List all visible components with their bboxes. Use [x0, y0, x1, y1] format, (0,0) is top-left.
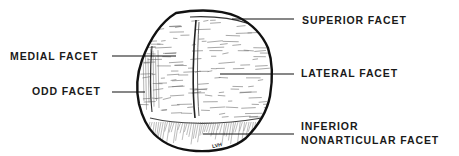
hatch-stroke	[237, 26, 246, 27]
median-ridge	[193, 20, 196, 118]
hatch-stroke	[222, 53, 228, 54]
hatch-stroke	[226, 107, 238, 108]
hatch-stroke	[167, 74, 179, 75]
hatch-stroke	[218, 95, 225, 96]
hatch-stroke	[187, 107, 193, 108]
label-lateral-facet: LATERAL FACET	[301, 67, 398, 80]
label-superior-facet: SUPERIOR FACET	[302, 14, 407, 27]
hatch-stroke	[234, 116, 251, 117]
label-inferior-line2: NONARTICULAR FACET	[301, 134, 439, 147]
hatch-stroke	[232, 45, 241, 46]
inferior-hatch-stroke	[259, 122, 262, 133]
hatch-stroke	[241, 108, 256, 109]
hatch-stroke	[254, 50, 266, 51]
hatch-stroke	[148, 58, 149, 103]
hatch-stroke	[210, 23, 221, 24]
hatch-stroke	[218, 62, 234, 63]
hatch-stroke	[183, 71, 201, 72]
hatch-stroke	[207, 47, 224, 48]
hatch-stroke	[172, 80, 183, 81]
hatch-stroke	[170, 95, 184, 96]
hatch-stroke	[220, 44, 228, 45]
hatch-stroke	[253, 59, 258, 60]
hatch-stroke	[195, 29, 211, 30]
hatch-stroke	[207, 41, 223, 43]
hatch-stroke	[155, 47, 172, 48]
hatch-stroke	[141, 35, 150, 36]
hatch-stroke	[255, 68, 270, 69]
hatch-stroke	[222, 117, 229, 118]
hatch-stroke	[226, 35, 240, 36]
hatch-stroke	[259, 101, 267, 102]
inferior-hatch-stroke	[180, 122, 183, 133]
inferior-hatch-stroke	[187, 122, 190, 135]
hatch-stroke	[205, 95, 212, 96]
inferior-hatch-stroke	[191, 122, 194, 144]
hatch-stroke	[198, 84, 209, 85]
label-medial-facet: MEDIAL FACET	[10, 50, 98, 63]
hatch-stroke	[161, 41, 166, 42]
hatch-stroke	[153, 89, 163, 91]
hatch-stroke	[146, 29, 156, 30]
inferior-hatch-stroke	[261, 122, 264, 133]
label-odd-facet: ODD FACET	[32, 85, 101, 98]
median-ridge-shadow	[198, 22, 200, 116]
hatch-stroke	[264, 38, 274, 39]
hatch-stroke	[219, 92, 224, 93]
hatch-stroke	[255, 66, 268, 67]
patella-diagram: SUPERIOR FACET MEDIAL FACET LATERAL FACE…	[0, 0, 459, 156]
hatch-stroke	[163, 98, 171, 100]
hatch-stroke	[203, 20, 208, 21]
inferior-ridge	[150, 118, 262, 123]
hatch-stroke	[248, 86, 253, 87]
inferior-hatch-stroke	[215, 122, 218, 139]
hatch-stroke	[258, 80, 263, 81]
hatch-stroke	[140, 74, 153, 75]
hatch-stroke	[190, 59, 201, 60]
hatch-stroke	[256, 26, 263, 27]
hatch-stroke	[156, 57, 157, 101]
hatch-stroke	[144, 47, 156, 48]
surface-hatching	[140, 20, 277, 117]
label-inferior-line1: INFERIOR	[301, 120, 358, 133]
hatch-stroke	[169, 62, 183, 63]
hatch-stroke	[158, 50, 159, 108]
hatch-stroke	[210, 107, 225, 108]
inferior-hatch-stroke	[220, 122, 223, 134]
hatch-stroke	[219, 113, 225, 114]
